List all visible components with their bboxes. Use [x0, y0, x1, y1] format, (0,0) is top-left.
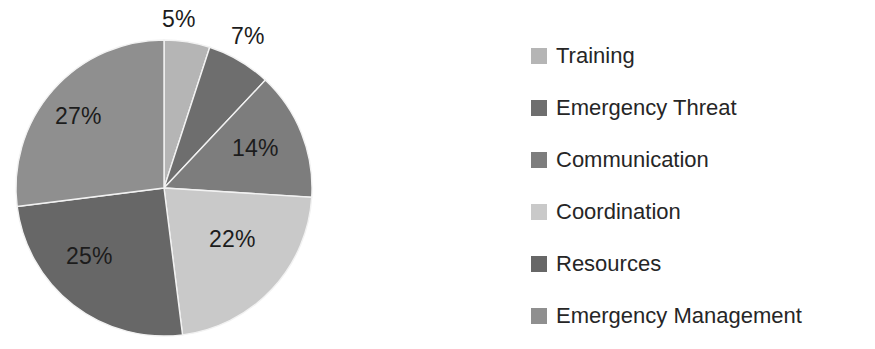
legend-item-label: Communication	[556, 149, 709, 171]
legend-swatch-icon	[531, 204, 547, 220]
slice-value-label: 27%	[55, 105, 102, 128]
legend-item-label: Emergency Threat	[556, 97, 737, 119]
pie-svg	[0, 0, 500, 349]
chart-legend: TrainingEmergency ThreatCommunicationCoo…	[531, 30, 875, 342]
legend-swatch-icon	[531, 100, 547, 116]
legend-item-communication[interactable]: Communication	[531, 134, 875, 186]
legend-swatch-icon	[531, 152, 547, 168]
legend-item-label: Emergency Management	[556, 305, 802, 327]
slice-value-label: 14%	[232, 137, 279, 160]
legend-item-coordination[interactable]: Coordination	[531, 186, 875, 238]
legend-item-emergency-management[interactable]: Emergency Management	[531, 290, 875, 342]
legend-swatch-icon	[531, 308, 547, 324]
pie-plot-area: 5%7%14%22%25%27%	[0, 0, 500, 349]
legend-item-label: Resources	[556, 253, 661, 275]
pie-chart-figure: 5%7%14%22%25%27% TrainingEmergency Threa…	[0, 0, 875, 349]
legend-item-label: Coordination	[556, 201, 681, 223]
slice-value-label: 25%	[66, 245, 113, 268]
legend-swatch-icon	[531, 48, 547, 64]
legend-item-label: Training	[556, 45, 635, 67]
slice-value-label: 22%	[209, 228, 256, 251]
legend-item-resources[interactable]: Resources	[531, 238, 875, 290]
legend-item-emergency-threat[interactable]: Emergency Threat	[531, 82, 875, 134]
legend-swatch-icon	[531, 256, 547, 272]
legend-item-training[interactable]: Training	[531, 30, 875, 82]
slice-value-label: 7%	[231, 25, 265, 48]
slice-value-label: 5%	[162, 8, 196, 31]
pie-slice-coordination[interactable]	[164, 188, 312, 335]
